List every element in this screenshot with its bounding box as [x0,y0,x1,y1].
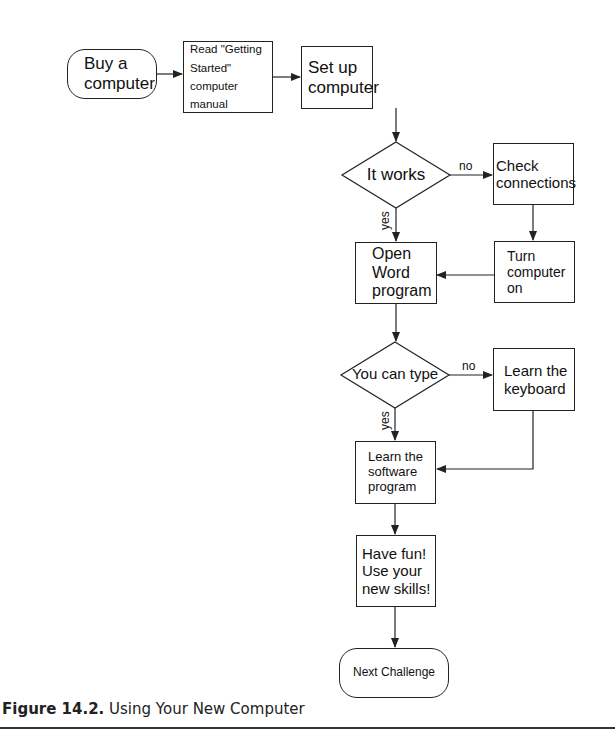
process-have-fun: Have fun! Use your new skills! [356,535,436,607]
node-label: Set up computer [308,58,379,97]
figure-caption: Figure 14.2. Using Your New Computer [2,700,305,718]
process-learn-keyboard: Learn the keyboard [493,348,575,411]
process-check-connections: Check connections [493,143,574,205]
node-label: Have fun! Use your new skills! [362,545,430,597]
node-label: Buy a computer [84,54,155,93]
node-label: Check connections [496,157,576,192]
decision-can-type-label: You can type [341,365,449,382]
edge-label-no: no [459,159,472,173]
decision-it-works-label: It works [342,165,450,185]
node-label: Learn the keyboard [504,362,567,397]
edge-label-no: no [462,359,475,373]
node-label: Read "Getting Started" computer manual [190,40,272,114]
node-label: Learn the software program [368,450,423,495]
process-read-manual: Read "Getting Started" computer manual [183,41,273,113]
edge-label-yes: yes [378,411,392,430]
caption-label: Figure 14.2. [2,700,104,718]
edge-label-yes: yes [378,211,392,230]
start-node-buy-computer: Buy a computer [67,49,157,99]
process-learn-software: Learn the software program [355,441,436,504]
caption-text: Using Your New Computer [104,700,304,718]
node-label: Turn computer on [507,248,565,296]
node-label: Open Word program [372,245,432,300]
divider-rule [0,727,615,729]
process-open-word: Open Word program [355,242,437,304]
node-label: Next Challenge [353,666,435,680]
end-node-next-challenge: Next Challenge [339,648,449,698]
process-turn-computer-on: Turn computer on [494,241,575,303]
process-set-up-computer: Set up computer [301,46,373,109]
